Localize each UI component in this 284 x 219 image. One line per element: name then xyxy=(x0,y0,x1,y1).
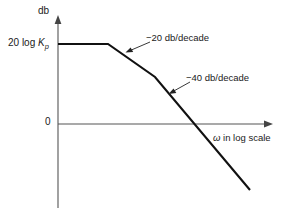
zero-tick-label: 0 xyxy=(45,117,51,127)
bode-plot-figure: db 20 log Kp 0 ω in log scale −20 db/dec… xyxy=(0,0,284,219)
gain-symbol-text: K xyxy=(38,37,45,48)
y-axis-arrowhead-icon xyxy=(55,15,62,24)
gain-constant-label: 20 log Kp xyxy=(8,38,49,50)
gain-prefix-text: 20 log xyxy=(8,37,38,48)
gain-subscript-text: p xyxy=(45,42,49,51)
slope-40-leader-arrowhead-icon xyxy=(169,89,177,94)
x-axis-label: ω in log scale xyxy=(213,133,271,143)
x-axis-arrowhead-icon xyxy=(264,121,273,128)
slope-20-leader-line xyxy=(129,42,150,51)
slope-20-annotation: −20 db/decade xyxy=(146,33,209,43)
slope-40-annotation: −40 db/decade xyxy=(186,73,249,83)
x-axis-label-text: in log scale xyxy=(220,132,270,143)
plot-canvas xyxy=(0,0,284,219)
magnitude-asymptote-curve xyxy=(58,44,250,190)
y-axis-label: db xyxy=(38,6,49,16)
